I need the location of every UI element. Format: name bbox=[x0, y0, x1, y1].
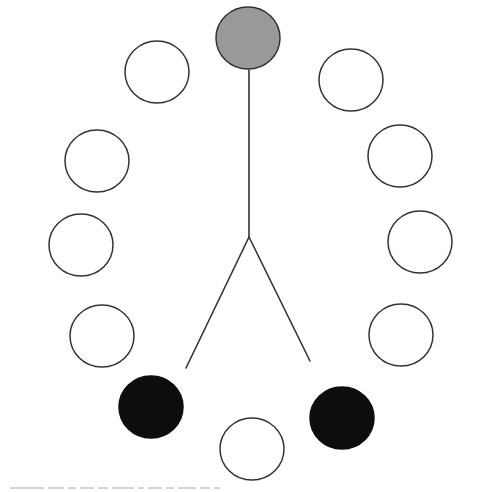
circle-bottom-white bbox=[220, 418, 284, 480]
circle-top-head-gray bbox=[216, 7, 280, 69]
caption-fragment bbox=[68, 487, 76, 489]
figure-caption-truncated bbox=[10, 487, 245, 492]
circle-left-2-white bbox=[65, 130, 129, 192]
caption-fragment bbox=[138, 487, 144, 489]
caption-fragment bbox=[166, 487, 174, 489]
circle-left-3-white bbox=[49, 214, 113, 276]
caption-fragment bbox=[148, 487, 162, 489]
caption-fragment bbox=[48, 487, 64, 489]
figure-right-leg bbox=[249, 237, 310, 361]
circle-left-4-white bbox=[70, 305, 134, 367]
circle-right-4-white bbox=[369, 304, 433, 366]
figure-left-leg bbox=[186, 237, 249, 368]
circle-bottom-right-black bbox=[310, 387, 374, 449]
caption-fragment bbox=[80, 487, 94, 489]
circle-bottom-left-black bbox=[119, 376, 183, 438]
caption-fragment bbox=[10, 487, 44, 489]
caption-fragment bbox=[200, 487, 210, 489]
caption-fragment bbox=[214, 487, 220, 489]
circle-right-1-white bbox=[319, 49, 383, 111]
circle-right-3-white bbox=[388, 211, 452, 273]
caption-fragment bbox=[98, 487, 108, 489]
circle-ring bbox=[49, 7, 452, 480]
stick-figure bbox=[186, 70, 310, 368]
figure-canvas bbox=[0, 0, 478, 492]
circle-left-1-white bbox=[125, 41, 189, 103]
caption-fragment bbox=[178, 487, 196, 489]
circle-right-2-white bbox=[368, 125, 432, 187]
caption-fragment bbox=[112, 487, 134, 489]
